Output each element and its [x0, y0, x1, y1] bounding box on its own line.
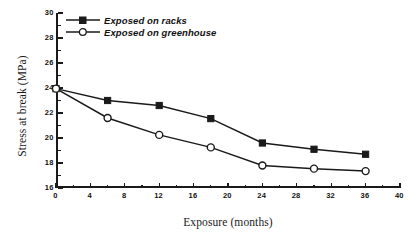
x-tick-label: 40 — [395, 191, 404, 200]
y-tick-label: 22 — [45, 108, 54, 117]
y-tick-label: 20 — [45, 133, 54, 142]
data-point — [53, 85, 60, 92]
y-tick-label: 30 — [45, 8, 54, 17]
legend: Exposed on racks Exposed on greenhouse — [66, 14, 266, 38]
data-point — [207, 144, 214, 151]
y-tick-label: 18 — [45, 158, 54, 167]
open-circle-icon — [66, 26, 100, 38]
legend-label-racks: Exposed on racks — [104, 15, 187, 26]
x-tick-label: 24 — [257, 191, 266, 200]
x-tick-label: 4 — [88, 191, 92, 200]
data-point — [363, 151, 369, 157]
data-point — [362, 168, 369, 175]
data-point — [208, 116, 214, 122]
legend-item-racks: Exposed on racks — [66, 14, 266, 26]
series-plot — [56, 13, 400, 188]
x-tick-label: 12 — [154, 191, 163, 200]
data-point — [104, 115, 111, 122]
data-point — [156, 102, 162, 108]
data-point — [259, 162, 266, 169]
legend-label-greenhouse: Exposed on greenhouse — [104, 27, 216, 38]
x-tick-label: 32 — [326, 191, 335, 200]
legend-item-greenhouse: Exposed on greenhouse — [66, 26, 266, 38]
data-point — [156, 131, 163, 138]
y-tick-label: 28 — [45, 33, 54, 42]
x-tick-label: 0 — [53, 191, 57, 200]
series-line-1 — [56, 89, 366, 171]
x-tick-label: 16 — [189, 191, 198, 200]
data-point — [105, 97, 111, 103]
x-tick-label: 20 — [223, 191, 232, 200]
y-axis-title: Stress at break (MPa) — [16, 36, 28, 176]
x-axis-title: Exposure (months) — [56, 216, 400, 228]
data-point — [311, 146, 317, 152]
x-tick-label: 8 — [122, 191, 126, 200]
x-tick-label: 28 — [292, 191, 301, 200]
y-tick-label: 26 — [45, 58, 54, 67]
data-point — [311, 165, 318, 172]
plot-area: 1618202224262830 0481216202428323640 — [56, 13, 400, 188]
filled-square-icon — [66, 14, 100, 26]
chart-figure: 1618202224262830 0481216202428323640 Exp… — [0, 0, 417, 244]
data-point — [259, 140, 265, 146]
x-tick-label: 36 — [361, 191, 370, 200]
